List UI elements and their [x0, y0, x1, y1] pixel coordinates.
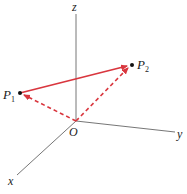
vector-o-to-p1 — [24, 95, 76, 121]
point-p1-label: P1 — [2, 87, 15, 104]
point-p2 — [130, 63, 134, 67]
y-axis-label: y — [176, 127, 183, 141]
origin-label: O — [69, 125, 78, 139]
point-p1 — [18, 91, 22, 95]
z-axis-label: z — [71, 0, 77, 14]
x-axis-label: x — [7, 174, 14, 188]
point-p2-label: P2 — [136, 57, 149, 74]
vector-p1-to-p2 — [20, 66, 127, 93]
vector-diagram: z y x O P1 P2 — [0, 0, 187, 194]
y-axis — [76, 121, 175, 132]
vector-o-to-p2 — [76, 68, 128, 121]
x-axis — [17, 121, 76, 175]
